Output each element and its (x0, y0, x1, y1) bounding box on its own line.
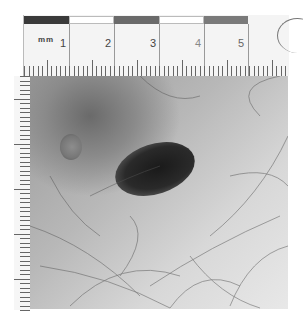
ruler-tick (222, 66, 223, 76)
ruler-tick (20, 225, 30, 226)
ruler-tick (47, 60, 48, 76)
ruler-tick (267, 66, 268, 76)
ruler-tick (42, 66, 43, 76)
ruler-tick (20, 270, 30, 271)
ruler-tick (87, 66, 88, 76)
ruler-tick (249, 66, 250, 76)
ruler-tick (240, 66, 241, 76)
ruler-tick (20, 301, 30, 302)
ruler-tick (38, 66, 39, 76)
ruler-tick (20, 94, 30, 95)
ruler-tick (24, 66, 25, 76)
ruler-tick (123, 66, 124, 76)
ruler-tick (20, 76, 30, 77)
ruler-tick (110, 66, 111, 76)
ruler-tick (263, 66, 264, 76)
ruler-tick (177, 66, 178, 76)
ruler-label-4: 4 (195, 37, 201, 49)
ruler-tick (65, 66, 66, 76)
ruler-tick (14, 279, 30, 280)
skin-photo (30, 76, 288, 309)
ruler-tick (20, 166, 30, 167)
ruler-tick (186, 66, 187, 76)
left-ruler (14, 76, 30, 310)
ruler-tick (33, 66, 34, 76)
ruler-tick (20, 202, 30, 203)
ruler-tick (20, 90, 30, 91)
ruler-tick (96, 66, 97, 76)
ruler-tick (20, 85, 30, 86)
ruler-tick (20, 247, 30, 248)
ruler-tick (20, 108, 30, 109)
ruler-tick (209, 66, 210, 76)
ruler-bar-1 (24, 16, 69, 24)
ruler-tick (200, 66, 201, 76)
ruler-tick (78, 66, 79, 76)
top-ruler: mm 1 2 3 4 5 (23, 15, 289, 76)
ruler-tick (20, 157, 30, 158)
ruler-tick (101, 66, 102, 76)
ruler-tick (20, 175, 30, 176)
ruler-tick (182, 60, 183, 76)
ruler-tick (14, 189, 30, 190)
ruler-tick (20, 211, 30, 212)
ruler-tick (20, 252, 30, 253)
ruler-tick (92, 60, 93, 76)
ruler-tick (213, 66, 214, 76)
ruler-tick (114, 66, 115, 76)
ruler-tick (227, 60, 228, 76)
ruler-tick (14, 234, 30, 235)
ruler-tick (20, 112, 30, 113)
ruler-tick (204, 66, 205, 76)
ruler-tick (20, 153, 30, 154)
hair-overlay (30, 76, 288, 309)
ruler-tick (20, 148, 30, 149)
ruler-tick (195, 66, 196, 76)
ruler-tick (141, 66, 142, 76)
ruler-tick (173, 66, 174, 76)
ruler-tick (60, 66, 61, 76)
ruler-tick (69, 66, 70, 76)
ruler-tick (20, 261, 30, 262)
ruler-tick (20, 139, 30, 140)
ruler-tick (20, 207, 30, 208)
ruler-label-5: 5 (238, 37, 244, 49)
ruler-tick (20, 216, 30, 217)
ruler-label-2: 2 (105, 37, 111, 49)
ruler-tick (281, 66, 282, 76)
ruler-label-3: 3 (150, 37, 156, 49)
ruler-tick (191, 66, 192, 76)
ruler-bar-3 (114, 16, 159, 24)
ruler-tick (164, 66, 165, 76)
ruler-tick (20, 162, 30, 163)
ruler-tick (20, 220, 30, 221)
ruler-tick (146, 66, 147, 76)
ruler-tick (74, 66, 75, 76)
ruler-tick (20, 292, 30, 293)
ruler-tick (20, 306, 30, 307)
ruler-tick (105, 66, 106, 76)
ruler-tick (20, 256, 30, 257)
ruler-tick (20, 283, 30, 284)
ruler-tick (245, 66, 246, 76)
ruler-tick (20, 103, 30, 104)
ruler-tick (14, 144, 30, 145)
ruler-tick (20, 171, 30, 172)
ruler-tick (254, 66, 255, 76)
ruler-tick (272, 60, 273, 76)
ruler-tick (20, 198, 30, 199)
ruler-tick (20, 130, 30, 131)
ruler-tick (20, 297, 30, 298)
ruler-tick (51, 66, 52, 76)
ruler-tick (155, 66, 156, 76)
ruler-tick (150, 66, 151, 76)
ruler-tick (20, 274, 30, 275)
ruler-tick (119, 66, 120, 76)
ruler-tick (236, 66, 237, 76)
ruler-tick (218, 66, 219, 76)
ruler-tick (20, 310, 30, 311)
ruler-tick (132, 66, 133, 76)
ruler-tick (20, 135, 30, 136)
ruler-bar-4 (159, 16, 204, 24)
ruler-bar-2 (69, 16, 114, 24)
